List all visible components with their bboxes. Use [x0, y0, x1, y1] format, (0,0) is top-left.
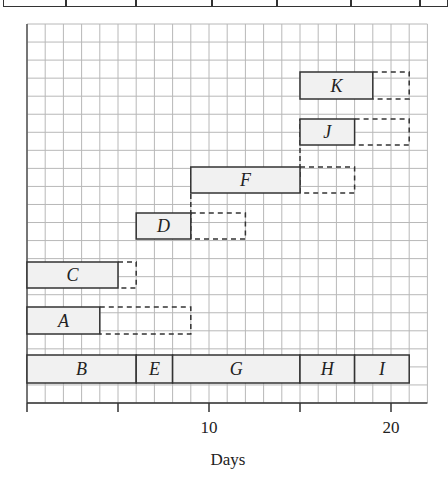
activity-label: H: [320, 359, 335, 379]
activity-bar-a: A: [27, 307, 100, 334]
activity-label: K: [329, 76, 343, 96]
x-tick-label: 20: [383, 418, 400, 437]
activity-label: F: [239, 170, 252, 190]
activity-label: I: [378, 359, 386, 379]
activity-label: G: [230, 359, 243, 379]
activity-label: J: [323, 122, 332, 142]
float-box-a: [100, 307, 191, 334]
activity-label: E: [148, 359, 160, 379]
activity-label: D: [156, 216, 170, 236]
activity-bar-f: F: [191, 167, 300, 193]
activity-label: B: [76, 359, 87, 379]
activity-bars: KJFDCABEGHI: [27, 72, 409, 383]
x-tick-label: 10: [201, 418, 218, 437]
x-axis-label: Days: [211, 450, 246, 469]
gantt-chart: KJFDCABEGHI 1020 Days: [0, 0, 448, 477]
activity-bar-i: I: [355, 355, 410, 383]
activity-bar-c: C: [27, 262, 118, 288]
activity-bar-h: H: [300, 355, 355, 383]
activity-bar-b: B: [27, 355, 136, 383]
x-axis: 1020: [27, 403, 427, 437]
activity-label: C: [66, 265, 79, 285]
activity-bar-g: G: [173, 355, 300, 383]
activity-bar-k: K: [300, 72, 373, 99]
activity-bar-e: E: [136, 355, 172, 383]
activity-bar-j: J: [300, 119, 355, 145]
activity-bar-d: D: [136, 213, 191, 239]
float-box-c: [118, 262, 136, 288]
activity-label: A: [57, 311, 70, 331]
float-box-d: [191, 213, 246, 239]
float-box-f: [300, 167, 355, 193]
